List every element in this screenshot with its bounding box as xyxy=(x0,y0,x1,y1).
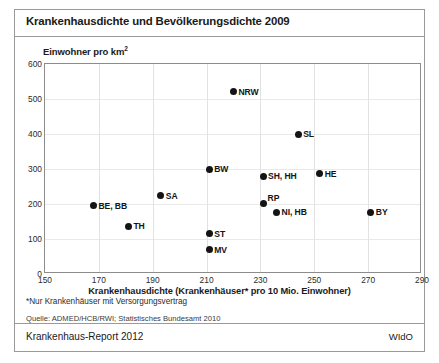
data-point-label: ST xyxy=(214,229,225,239)
y-axis-tick-label: 400 xyxy=(28,129,42,139)
x-axis-tick-label: 290 xyxy=(415,275,429,285)
data-point xyxy=(206,230,213,237)
data-point xyxy=(260,200,267,207)
data-point-label: SH, HH xyxy=(268,171,297,181)
data-point-label: BW xyxy=(214,164,228,174)
y-axis-tick-label: 600 xyxy=(28,59,42,69)
y-axis-tick-label: 100 xyxy=(28,234,42,244)
gridline-vertical xyxy=(314,64,315,272)
plot-area: 0100200300400500600150170190210230250270… xyxy=(44,63,421,273)
x-axis-tick-label: 270 xyxy=(361,275,375,285)
y-axis-tick-label: 300 xyxy=(28,164,42,174)
data-point xyxy=(260,173,267,180)
data-point xyxy=(316,170,323,177)
figure-title: Krankenhausdichte und Bevölkerungsdichte… xyxy=(26,15,290,27)
data-point xyxy=(157,192,164,199)
figure-title-bar: Krankenhausdichte und Bevölkerungsdichte… xyxy=(15,10,424,37)
footer-report-label: Krankenhaus-Report 2012 xyxy=(26,331,143,342)
gridline-horizontal xyxy=(45,239,420,240)
x-axis-tick-label: 170 xyxy=(92,275,106,285)
data-point-label: NI, HB xyxy=(282,207,307,217)
data-point-label: NRW xyxy=(239,87,259,97)
data-point xyxy=(90,202,97,209)
y-axis-tick-label: 500 xyxy=(28,94,42,104)
gridline-vertical xyxy=(153,64,154,272)
footnote: *Nur Krankenhäuser mit Versorgungsvertra… xyxy=(26,297,187,306)
x-axis-tick-label: 230 xyxy=(253,275,267,285)
gridline-horizontal xyxy=(45,134,420,135)
x-axis-tick-label: 150 xyxy=(38,275,52,285)
data-point xyxy=(367,209,374,216)
data-point-label: BY xyxy=(376,207,388,217)
x-axis-tick-label: 190 xyxy=(146,275,160,285)
data-point-label: BE, BB xyxy=(98,201,127,211)
gridline-vertical xyxy=(99,64,100,272)
data-point-label: MV xyxy=(214,245,227,255)
data-point xyxy=(273,209,280,216)
footer-publisher-label: WIdO xyxy=(389,331,413,342)
data-point-label: SA xyxy=(166,191,178,201)
data-point xyxy=(206,246,213,253)
x-axis-tick-label: 210 xyxy=(200,275,214,285)
data-point-label: HE xyxy=(325,169,337,179)
data-point xyxy=(206,166,213,173)
x-axis-title: Krankenhausdichte (Krankenhäuser* pro 10… xyxy=(15,286,424,296)
data-point-label: TH xyxy=(133,221,144,231)
gridline-vertical xyxy=(260,64,261,272)
footer-bar: Krankenhaus-Report 2012 WIdO xyxy=(15,323,424,351)
data-point xyxy=(295,131,302,138)
data-point xyxy=(125,223,132,230)
y-axis-tick-label: 200 xyxy=(28,199,42,209)
data-point xyxy=(230,88,237,95)
gridline-horizontal xyxy=(45,169,420,170)
gridline-vertical xyxy=(368,64,369,272)
y-axis-title-text: Einwohner pro km2 xyxy=(43,46,128,57)
chart-figure: Krankenhausdichte und Bevölkerungsdichte… xyxy=(14,9,425,352)
y-axis-title: Einwohner pro km2 xyxy=(43,46,128,57)
data-point-label: RP xyxy=(268,193,280,203)
plot-inner: 0100200300400500600150170190210230250270… xyxy=(45,64,420,272)
data-point-label: SL xyxy=(303,129,314,139)
x-axis-tick-label: 250 xyxy=(307,275,321,285)
chart-region: Einwohner pro km2 0100200300400500600150… xyxy=(15,37,424,289)
gridline-horizontal xyxy=(45,99,420,100)
source-line: Quelle: ADMED/HCB/RWI; Statistisches Bun… xyxy=(26,314,220,323)
